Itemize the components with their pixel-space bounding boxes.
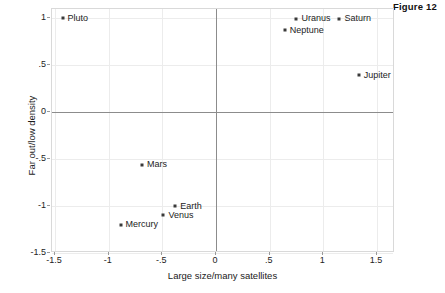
- data-point-label: Venus: [168, 211, 193, 220]
- data-point-marker: [338, 17, 341, 20]
- x-zero-axis-line: [52, 112, 393, 113]
- gridline-vertical: [109, 9, 110, 251]
- data-point-label: Pluto: [68, 14, 89, 23]
- y-tick-label: -.5: [35, 154, 46, 163]
- gridline-vertical: [377, 9, 378, 251]
- gridline-vertical: [270, 9, 271, 251]
- x-tick-label: -1.5: [46, 256, 62, 265]
- x-tick-label: 1: [320, 256, 325, 265]
- x-tick-label: .5: [265, 256, 273, 265]
- data-point-label: Uranus: [301, 14, 330, 23]
- gridline-horizontal: [52, 206, 393, 207]
- gridline-horizontal: [52, 65, 393, 66]
- y-tickmark: [47, 205, 50, 206]
- data-point-marker: [295, 17, 298, 20]
- gridline-vertical: [55, 9, 56, 251]
- y-tickmark: [47, 252, 50, 253]
- gridline-horizontal: [52, 253, 393, 254]
- y-tick-label: .5: [38, 60, 46, 69]
- data-point-marker: [357, 74, 360, 77]
- y-tick-label: -1: [38, 201, 46, 210]
- x-tick-label: -.5: [156, 256, 167, 265]
- gridline-vertical: [323, 9, 324, 251]
- data-point-marker: [283, 29, 286, 32]
- x-tick-label: 0: [212, 256, 217, 265]
- y-tickmark: [47, 158, 50, 159]
- x-tick-label: 1.5: [370, 256, 383, 265]
- y-tick-label: 0: [41, 107, 46, 116]
- plot-area: PlutoUranusSaturnNeptuneJupiterMarsEarth…: [51, 8, 394, 252]
- x-tick-label: -1: [104, 256, 112, 265]
- data-point-marker: [140, 163, 143, 166]
- gridline-horizontal: [52, 18, 393, 19]
- data-point-label: Jupiter: [364, 71, 391, 80]
- x-axis-title: Large size/many satellites: [51, 270, 394, 281]
- gridline-horizontal: [52, 159, 393, 160]
- scatter-plot-figure: Figure 12 PlutoUranusSaturnNeptuneJupite…: [0, 0, 445, 293]
- data-point-label: Mars: [147, 160, 167, 169]
- data-point-marker: [61, 17, 64, 20]
- data-point-label: Neptune: [290, 26, 324, 35]
- data-point-label: Mercury: [126, 220, 159, 229]
- y-axis-title: Far out/low density: [26, 56, 37, 216]
- y-tick-label: -1.5: [30, 248, 46, 257]
- y-zero-axis-line: [216, 9, 217, 251]
- data-point-label: Saturn: [344, 14, 371, 23]
- y-tickmark: [47, 17, 50, 18]
- y-tickmark: [47, 111, 50, 112]
- figure-caption: Figure 12: [393, 1, 437, 12]
- data-point-marker: [119, 223, 122, 226]
- y-tickmark: [47, 64, 50, 65]
- data-point-marker: [162, 214, 165, 217]
- data-point-marker: [174, 205, 177, 208]
- y-tick-label: 1: [41, 13, 46, 22]
